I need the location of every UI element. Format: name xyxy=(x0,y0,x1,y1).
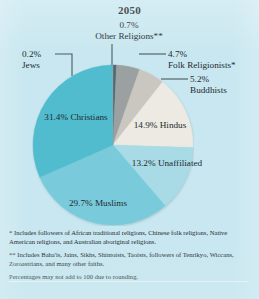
slice-label-christians: 31.4% Christians xyxy=(36,112,116,123)
callout-buddhists-pct: 5.2% xyxy=(190,74,259,85)
chart-title: 2050 xyxy=(0,4,259,16)
slice-label-hindus-name: Hindus xyxy=(160,120,187,130)
slice-label-muslims-name: Muslims xyxy=(95,198,127,208)
slice-label-muslims-pct: 29.7% xyxy=(69,198,93,208)
footnote-single-asterisk: * Includes followers of African traditio… xyxy=(9,229,252,246)
slice-label-hindus: 14.9% Hindus xyxy=(128,120,192,131)
callout-other-religions: 0.7% Other Religions** xyxy=(54,20,204,42)
slice-label-hindus-pct: 14.9% xyxy=(134,120,158,130)
slice-label-unaffiliated-pct: 13.2% xyxy=(132,158,156,168)
slice-label-muslims: 29.7% Muslims xyxy=(58,198,138,209)
callout-jews-pct: 0.2% xyxy=(22,49,82,60)
footnote-double-asterisk: ** Includes Baha'is, Jains, Sikhs, Shint… xyxy=(9,251,252,268)
slice-label-unaffiliated-name: Unaffiliated xyxy=(158,158,202,168)
callout-other-religions-pct: 0.7% xyxy=(54,20,204,31)
slice-label-unaffiliated: 13.2% Unaffiliated xyxy=(127,158,207,169)
callout-folk-religionists-pct: 4.7% xyxy=(168,49,259,60)
pie-chart-figure: 2050 0.7% Other Religions** 0.2% Jews 4.… xyxy=(0,0,259,299)
callout-other-religions-label: Other Religions** xyxy=(54,31,204,42)
callout-buddhists-label: Buddhists xyxy=(190,85,259,96)
callout-buddhists: 5.2% Buddhists xyxy=(190,74,259,96)
slice-label-christians-pct: 31.4% xyxy=(44,112,68,122)
footer-divider xyxy=(9,281,249,282)
slice-label-christians-name: Christians xyxy=(70,112,107,122)
footnotes: * Includes followers of African traditio… xyxy=(9,229,252,282)
